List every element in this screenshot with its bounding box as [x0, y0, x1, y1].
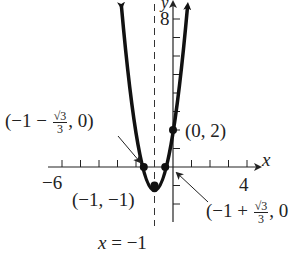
right-root-label: (−1 + √33, 0 — [206, 200, 288, 225]
x-axis-label: x — [262, 150, 270, 169]
y-intercept-point — [169, 126, 177, 134]
x-max-tick-label: 4 — [239, 175, 249, 194]
vertex-point — [151, 182, 159, 190]
left-root-point — [140, 163, 148, 171]
right-root-point — [161, 163, 169, 171]
y-intercept-label: (0, 2) — [185, 121, 226, 140]
y-max-tick-label: 8 — [160, 9, 170, 28]
parabola-graph: y 8 x −6 4 (0, 2) (−1, −1) (−1 − √33, 0)… — [0, 0, 304, 256]
axis-of-symmetry-label: x = −1 — [98, 233, 147, 252]
x-min-tick-label: −6 — [42, 173, 62, 192]
left-root-label: (−1 − √33, 0) — [5, 110, 94, 135]
right-root-leader — [177, 173, 208, 202]
vertex-label: (−1, −1) — [72, 190, 135, 209]
